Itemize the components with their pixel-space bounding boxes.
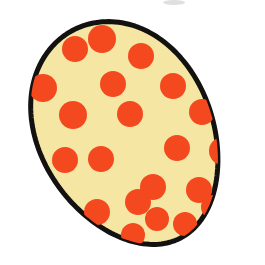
red-spot	[117, 101, 143, 127]
red-spot	[209, 137, 237, 165]
scan-artifact-group	[163, 0, 185, 5]
red-spot	[160, 73, 186, 99]
red-spot	[88, 25, 116, 53]
red-spot	[173, 212, 197, 236]
red-spot	[100, 71, 126, 97]
red-spot	[52, 147, 78, 173]
red-spot	[164, 135, 190, 161]
red-spot	[145, 207, 169, 231]
red-spot	[128, 43, 154, 69]
egg-body	[31, 22, 218, 245]
red-spot	[88, 146, 114, 172]
red-spot	[125, 189, 151, 215]
red-spot	[62, 36, 88, 62]
egg-figure	[0, 0, 265, 265]
illustration-canvas	[0, 0, 265, 265]
red-spot	[59, 101, 87, 129]
red-spot	[84, 199, 110, 225]
scan-smudge	[163, 0, 185, 5]
